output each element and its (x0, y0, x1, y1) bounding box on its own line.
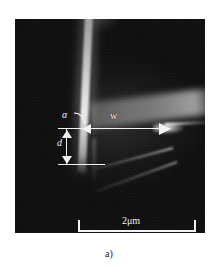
scale-bar-cap-left (78, 220, 80, 232)
depth-label-d: d (57, 138, 62, 148)
depth-arrowhead-down (62, 156, 72, 164)
micrograph-shadow-streak (92, 139, 96, 183)
micrograph-bright-vertex (153, 117, 199, 139)
micrograph-image[interactable]: α w d 2μm (15, 19, 205, 233)
depth-arrowhead-up (62, 130, 72, 138)
figure-caption: a) (0, 248, 218, 259)
depth-dimension-shaft (66, 129, 67, 164)
angle-label-alpha: α (62, 110, 67, 120)
figure-panel: α w d 2μm a) (0, 0, 218, 266)
